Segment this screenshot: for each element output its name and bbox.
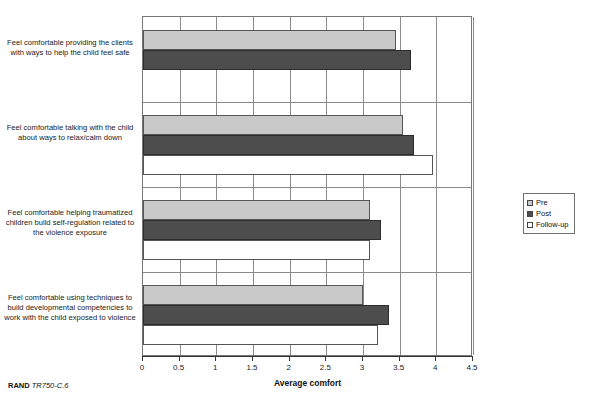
legend-swatch-follow-up-icon <box>527 222 533 228</box>
x-tick-label-4: 4 <box>433 363 437 372</box>
footer-report-code: TR750-C.6 <box>32 381 69 390</box>
bar-post-group-3 <box>143 220 381 240</box>
category-label-3: Feel comfortable helping traumatized chi… <box>4 208 136 238</box>
legend-item-post[interactable]: Post <box>527 208 569 219</box>
x-tick-4 <box>435 356 436 361</box>
x-tick-label-1: 1 <box>213 363 217 372</box>
legend-item-follow-up[interactable]: Follow-up <box>527 219 569 230</box>
legend-label-pre: Pre <box>536 197 548 208</box>
figure-source-footer: RAND TR750-C.6 <box>8 381 68 390</box>
x-tick-0 <box>142 356 143 361</box>
chart-legend: Pre Post Follow-up <box>523 193 575 234</box>
x-tick-label-3-5: 3.5 <box>393 363 404 372</box>
x-tick-2 <box>289 356 290 361</box>
x-tick-label-2-5: 2.5 <box>320 363 331 372</box>
category-label-1: Feel comfortable providing the clients w… <box>4 38 136 58</box>
bar-follow-up-group-2 <box>143 155 433 175</box>
x-tick-4-5 <box>472 356 473 361</box>
group-separator <box>143 187 471 188</box>
group-separator <box>143 102 471 103</box>
x-tick-label-2: 2 <box>286 363 290 372</box>
bar-post-group-2 <box>143 135 414 155</box>
chart-plot-area <box>142 16 472 356</box>
legend-label-post: Post <box>536 208 551 219</box>
x-axis-title: Average comfort <box>142 378 473 388</box>
footer-rand-label: RAND <box>8 381 30 390</box>
x-tick-0-5 <box>179 356 180 361</box>
legend-swatch-post-icon <box>527 211 533 217</box>
x-tick-label-1-5: 1.5 <box>246 363 257 372</box>
legend-swatch-pre-icon <box>527 200 533 206</box>
bar-post-group-1 <box>143 50 411 70</box>
x-tick-label-0: 0 <box>140 363 144 372</box>
x-tick-3 <box>362 356 363 361</box>
x-tick-label-4-5: 4.5 <box>466 363 477 372</box>
bar-pre-group-4 <box>143 285 363 305</box>
x-tick-1-5 <box>252 356 253 361</box>
bar-pre-group-1 <box>143 30 396 50</box>
legend-item-pre[interactable]: Pre <box>527 197 569 208</box>
x-tick-label-0-5: 0.5 <box>173 363 184 372</box>
bar-pre-group-2 <box>143 115 403 135</box>
bar-post-group-4 <box>143 305 389 325</box>
legend-label-follow-up: Follow-up <box>536 219 569 230</box>
x-tick-1 <box>215 356 216 361</box>
x-tick-3-5 <box>399 356 400 361</box>
group-separator <box>143 272 471 273</box>
x-axis-line <box>142 356 473 357</box>
category-label-4: Feel comfortable using techniques to bui… <box>4 293 136 323</box>
bar-pre-group-3 <box>143 200 370 220</box>
gridline-4-5 <box>473 17 474 355</box>
x-tick-label-3: 3 <box>360 363 364 372</box>
x-tick-2-5 <box>325 356 326 361</box>
category-label-2: Feel comfortable talking with the child … <box>4 123 136 143</box>
bar-follow-up-group-3 <box>143 240 370 260</box>
faint-partial-title <box>150 0 590 10</box>
gridline-4 <box>436 17 437 355</box>
bar-follow-up-group-4 <box>143 325 378 345</box>
